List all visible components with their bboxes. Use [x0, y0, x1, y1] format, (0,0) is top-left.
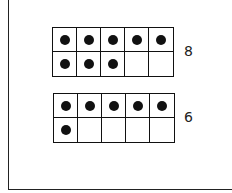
- ten-frame-cell: [150, 118, 174, 142]
- ten-frame-cell: [125, 28, 149, 52]
- count-label-8: 8: [184, 43, 193, 59]
- ten-frame-cell: [53, 28, 77, 52]
- ten-frame-cell: [78, 94, 102, 118]
- counter-dot-icon: [84, 59, 94, 69]
- ten-frame-cell: [150, 94, 174, 118]
- ten-frame-cell: [149, 52, 173, 76]
- ten-frame-cell: [77, 52, 101, 76]
- count-label-6: 6: [184, 109, 193, 125]
- ten-frame-cell: [125, 52, 149, 76]
- counter-dot-icon: [109, 101, 119, 111]
- counter-dot-icon: [84, 35, 94, 45]
- counter-dot-icon: [108, 35, 118, 45]
- ten-frame-cell: [53, 52, 77, 76]
- counter-dot-icon: [108, 59, 118, 69]
- counter-dot-icon: [133, 101, 143, 111]
- ten-frame-cell: [77, 28, 101, 52]
- ten-frame-cell: [149, 28, 173, 52]
- ten-frame-cell: [54, 118, 78, 142]
- counter-dot-icon: [61, 125, 71, 135]
- counter-dot-icon: [85, 101, 95, 111]
- ten-frame-6: [53, 93, 175, 143]
- ten-frame-cell: [101, 52, 125, 76]
- ten-frame-cell: [54, 94, 78, 118]
- counter-dot-icon: [61, 101, 71, 111]
- ten-frame-8: [52, 27, 174, 77]
- counter-dot-icon: [132, 35, 142, 45]
- counter-dot-icon: [157, 101, 167, 111]
- ten-frame-cell: [102, 94, 126, 118]
- counter-dot-icon: [60, 35, 70, 45]
- ten-frame-cell: [78, 118, 102, 142]
- ten-frame-cell: [126, 94, 150, 118]
- counter-dot-icon: [60, 59, 70, 69]
- ten-frame-cell: [101, 28, 125, 52]
- ten-frame-cell: [126, 118, 150, 142]
- ten-frame-cell: [102, 118, 126, 142]
- counter-dot-icon: [156, 35, 166, 45]
